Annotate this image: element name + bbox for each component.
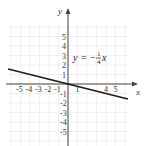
x-tick-label: -2 <box>45 85 52 94</box>
y-tick-label: -1 <box>60 90 67 99</box>
equation-equals: = <box>81 52 87 63</box>
y-tick-label: 1 <box>62 71 66 80</box>
graph: x y -5-4-3-2-114554321-1-2-3-4-5 y = − 1… <box>0 0 148 146</box>
equation-numerator: 1 <box>97 50 101 58</box>
x-axis-arrow-icon <box>132 82 138 87</box>
x-axis-label: x <box>135 87 140 97</box>
equation-var: x <box>101 52 107 63</box>
equation-sign: − <box>90 52 96 63</box>
y-tick-label: -3 <box>60 109 67 118</box>
x-tick-label: -4 <box>26 85 33 94</box>
y-tick-label: 5 <box>62 33 66 42</box>
x-tick-label: -5 <box>16 85 23 94</box>
y-axis-label: y <box>57 6 62 16</box>
y-tick-label: -4 <box>60 118 67 127</box>
equation-lhs: y <box>72 52 78 63</box>
y-tick-label: 4 <box>62 42 66 51</box>
y-tick-label: -5 <box>60 128 67 137</box>
x-tick-label: 5 <box>114 85 118 94</box>
equation-denominator: 4 <box>97 58 101 66</box>
y-axis-arrow-icon <box>66 8 71 14</box>
y-tick-label: 3 <box>62 52 66 61</box>
y-tick-label: 2 <box>62 61 66 70</box>
x-tick-label: -3 <box>35 85 42 94</box>
y-tick-label: -2 <box>60 99 67 108</box>
